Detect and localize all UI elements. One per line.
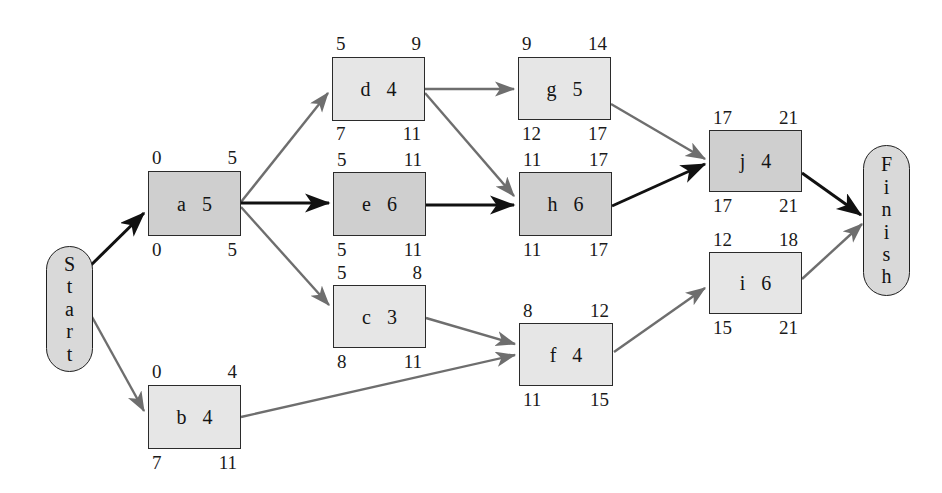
edge-c-f (426, 318, 515, 344)
node-d[interactable]: d 4 (332, 57, 425, 121)
node-a-late-finish: 5 (197, 240, 237, 259)
node-c-name: c (362, 307, 371, 327)
node-c-late-finish: 11 (378, 352, 422, 371)
node-g-early-finish: 14 (563, 34, 607, 53)
start-letter-1: t (67, 275, 73, 297)
node-b-duration: 4 (203, 407, 213, 427)
node-g-late-start: 12 (522, 124, 541, 143)
node-e-early-start: 5 (337, 150, 347, 169)
node-f[interactable]: f 4 (519, 323, 613, 386)
node-e-late-start: 5 (337, 240, 347, 259)
node-e-name: e (362, 194, 371, 214)
node-b-early-finish: 4 (197, 362, 237, 381)
node-j-duration: 4 (761, 151, 771, 171)
node-d-duration: 4 (387, 79, 397, 99)
node-j-name: j (740, 151, 746, 171)
node-a-late-start: 0 (152, 240, 162, 259)
start-letter-4: t (67, 343, 73, 365)
node-i-early-finish: 18 (754, 230, 798, 249)
node-c-early-finish: 8 (382, 263, 422, 282)
node-b-name: b (177, 407, 187, 427)
node-a-duration: 5 (202, 194, 212, 214)
node-j-early-start: 17 (713, 108, 732, 127)
node-h[interactable]: h 6 (519, 172, 612, 236)
node-e-body: e 6 (362, 194, 397, 214)
node-f-early-start: 8 (523, 301, 533, 320)
node-g-late-finish: 17 (563, 124, 607, 143)
node-a-early-finish: 5 (197, 148, 237, 167)
node-d-late-finish: 11 (377, 124, 421, 143)
finish-letter-5: h (882, 265, 892, 287)
edge-start-b (86, 306, 144, 411)
terminal-start-label: S t a r t (64, 253, 75, 365)
edge-a-d (241, 93, 328, 202)
node-f-early-finish: 12 (565, 301, 609, 320)
node-d-body: d 4 (361, 79, 397, 99)
node-b[interactable]: b 4 (148, 385, 241, 449)
start-letter-0: S (64, 253, 75, 275)
node-e-early-finish: 11 (378, 150, 422, 169)
node-j-late-start: 17 (713, 196, 732, 215)
node-e[interactable]: e 6 (333, 172, 426, 236)
node-i-early-start: 12 (713, 230, 732, 249)
edge-start-a (84, 213, 144, 272)
terminal-start[interactable]: S t a r t (46, 246, 93, 372)
node-b-late-start: 7 (152, 453, 162, 472)
node-f-body: f 4 (550, 345, 583, 365)
node-d-name: d (361, 79, 371, 99)
terminal-finish[interactable]: F i n i s h (863, 145, 910, 296)
node-h-late-finish: 17 (564, 240, 608, 259)
node-c-body: c 3 (362, 307, 397, 327)
edge-h-j (612, 164, 705, 206)
edge-f-i (614, 288, 705, 352)
node-e-late-finish: 11 (378, 240, 422, 259)
node-h-early-start: 11 (523, 150, 541, 169)
node-a-name: a (177, 194, 186, 214)
node-f-duration: 4 (572, 345, 582, 365)
node-j-late-finish: 21 (754, 196, 798, 215)
node-b-body: b 4 (177, 407, 213, 427)
edge-layer (0, 0, 942, 493)
node-f-late-start: 11 (523, 390, 541, 409)
node-c-early-start: 5 (337, 263, 347, 282)
node-i-late-finish: 21 (754, 318, 798, 337)
node-g-body: g 5 (547, 79, 583, 99)
edge-j-finish (802, 173, 861, 215)
node-a[interactable]: a 5 (148, 171, 241, 236)
node-d-late-start: 7 (336, 124, 346, 143)
edge-g-j (611, 104, 705, 159)
node-c[interactable]: c 3 (333, 285, 426, 348)
edge-i-finish (802, 224, 862, 279)
node-f-name: f (550, 345, 557, 365)
node-i-late-start: 15 (713, 318, 732, 337)
node-g[interactable]: g 5 (518, 57, 611, 120)
network-diagram-canvas: S t a r t F i n i s h a 5 0 5 0 5 b 4 (0, 0, 942, 493)
start-letter-2: a (65, 298, 74, 320)
node-e-duration: 6 (387, 194, 397, 214)
node-b-late-finish: 11 (193, 453, 237, 472)
node-a-body: a 5 (177, 194, 212, 214)
node-d-early-finish: 9 (381, 34, 421, 53)
node-j[interactable]: j 4 (709, 130, 802, 192)
terminal-finish-label: F i n i s h (881, 153, 892, 287)
finish-letter-0: F (881, 153, 892, 175)
node-h-body: h 6 (548, 194, 584, 214)
node-g-early-start: 9 (522, 34, 532, 53)
node-h-name: h (548, 194, 558, 214)
node-a-early-start: 0 (152, 148, 162, 167)
finish-letter-1: i (884, 176, 890, 198)
node-j-body: j 4 (740, 151, 772, 171)
node-i-body: i 6 (740, 273, 772, 293)
node-f-late-finish: 15 (565, 390, 609, 409)
node-g-name: g (547, 79, 557, 99)
node-b-early-start: 0 (152, 362, 162, 381)
node-i-duration: 6 (761, 273, 771, 293)
node-i-name: i (740, 273, 746, 293)
node-h-late-start: 11 (523, 240, 541, 259)
node-d-early-start: 5 (336, 34, 346, 53)
edge-a-c (241, 207, 329, 305)
node-h-duration: 6 (574, 194, 584, 214)
node-j-early-finish: 21 (754, 108, 798, 127)
node-i[interactable]: i 6 (709, 252, 802, 314)
finish-letter-3: i (884, 221, 890, 243)
